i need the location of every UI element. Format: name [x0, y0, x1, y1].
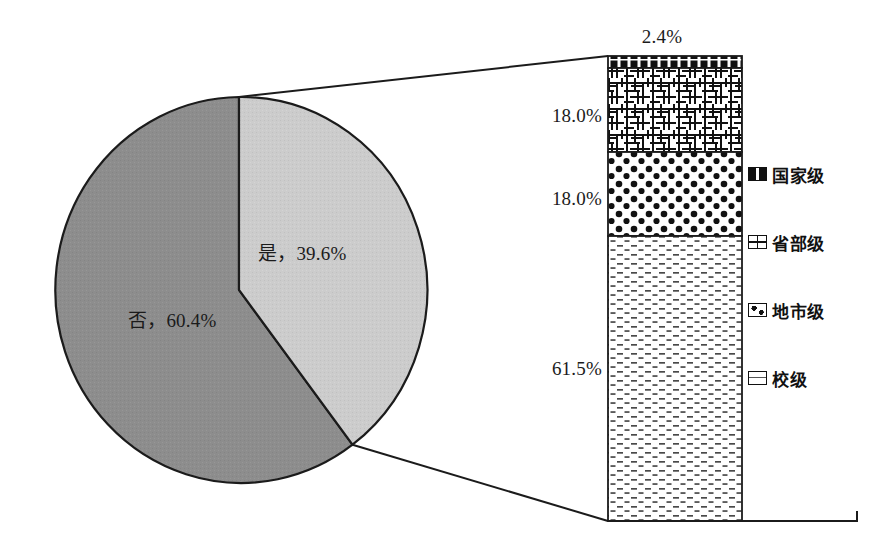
- legend-swatch-dots-icon: [748, 303, 767, 317]
- pie-label-no: 否，60.4%: [128, 305, 216, 332]
- bar-value-national: 2.4%: [604, 26, 720, 48]
- legend-swatch-crosshatch-icon: [748, 235, 767, 249]
- bar-value-school: 61.5%: [529, 358, 602, 380]
- bar-segment-national[interactable]: [608, 56, 742, 68]
- legend-label-prefectural: 地市级: [772, 298, 825, 323]
- legend: 国家级 省部级 地市级 校级: [748, 160, 873, 432]
- bar-value-provincial: 18.0%: [534, 105, 602, 127]
- legend-swatch-dashes-icon: [748, 371, 767, 385]
- bar-segment-school[interactable]: [608, 236, 742, 521]
- bar-value-prefectural: 18.0%: [534, 188, 602, 210]
- chart-figure: 是，39.6% 否，60.4% 2.4% 18.0% 18.0% 61.5% 国…: [0, 0, 877, 559]
- bar-segment-prefectural[interactable]: [608, 152, 742, 236]
- legend-item-prefectural[interactable]: 地市级: [748, 296, 873, 324]
- leader-line-top: [239, 56, 608, 97]
- leader-line-bottom: [353, 445, 609, 521]
- legend-label-provincial: 省部级: [772, 230, 825, 255]
- stacked-bar: [608, 56, 742, 521]
- legend-label-national: 国家级: [772, 162, 825, 187]
- legend-item-provincial[interactable]: 省部级: [748, 228, 873, 256]
- bar-segment-provincial[interactable]: [608, 68, 742, 152]
- pie-label-yes: 是，39.6%: [258, 238, 346, 265]
- pie-chart: [55, 97, 427, 483]
- chart-canvas: [0, 0, 877, 559]
- legend-item-national[interactable]: 国家级: [748, 160, 873, 188]
- legend-item-school[interactable]: 校级: [748, 364, 873, 392]
- legend-label-school: 校级: [772, 366, 807, 391]
- legend-swatch-checkerboard-icon: [748, 167, 767, 181]
